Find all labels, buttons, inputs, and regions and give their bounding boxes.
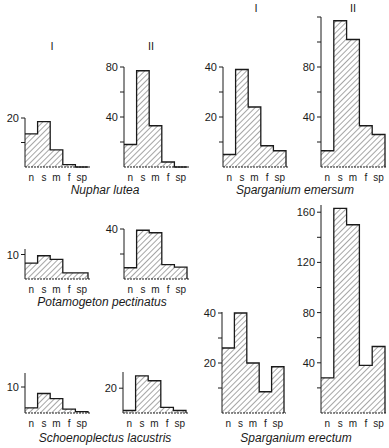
x-category-label: sp [373,172,384,183]
histogram-nuphar-lutea-ii: 4080nsmfsp [106,61,189,183]
panel-header-ii: II [148,40,154,52]
x-category-label: f [264,418,267,429]
x-category-label: s [239,172,244,183]
y-tick-label: 20 [105,382,117,394]
x-category-label: f [364,418,367,429]
x-category-label: s [338,172,343,183]
histogram-sparganium-emersum-i: 2040nsmfsp [205,61,288,183]
x-category-label: sp [373,418,384,429]
x-category-label: sp [76,418,87,429]
x-category-label: n [325,172,331,183]
x-category-label: sp [274,172,285,183]
x-category-label: s [338,418,343,429]
y-tick-label: 20 [204,357,216,369]
x-category-label: m [52,172,60,183]
y-tick-label: 10 [7,249,19,261]
x-category-label: n [29,418,35,429]
x-category-label: n [29,172,35,183]
x-category-label: m [349,172,357,183]
figure-canvas: IIIIII 20nsmfsp4080nsmfsp2040nsmfsp4080n… [0,0,389,448]
species-caption-sparganium-erectum: Sparganium erectum [240,431,351,445]
x-category-label: n [227,172,233,183]
x-category-label: m [151,284,159,295]
histogram-fill [124,71,187,167]
x-category-label: s [41,172,46,183]
x-category-label: n [29,284,35,295]
x-category-label: f [68,284,71,295]
y-tick-label: 40 [303,357,315,369]
x-category-label: m [349,418,357,429]
histogram-potamogeton-pectinatus-i: 10nsmfsp [7,249,90,296]
x-category-label: m [52,418,60,429]
y-tick-label: 40 [106,223,118,235]
x-category-label: f [167,172,170,183]
histogram-fill [25,394,88,414]
x-category-label: sp [175,172,186,183]
x-category-label: s [140,284,145,295]
y-tick-label: 80 [303,307,315,319]
x-category-label: s [41,418,46,429]
y-tick-label: 20 [7,112,19,124]
x-category-label: m [249,418,257,429]
y-tick-label: 40 [106,111,118,123]
panel-header-ii: II [350,2,356,14]
species-caption-potamogeton-pectinatus: Potamogeton pectinatus [37,295,166,309]
histogram-sparganium-erectum-ii: 4080120160nsmfsp [297,205,387,429]
x-category-label: f [166,418,169,429]
x-category-label: n [225,418,231,429]
histogram-potamogeton-pectinatus-ii: 40nsmfsp [106,223,189,295]
histogram-schoenoplectus-lacustris-i: 10nsmfsp [7,373,90,429]
x-category-label: f [68,418,71,429]
x-category-label: sp [174,418,185,429]
x-category-label: f [167,284,170,295]
panel-header-i: I [254,2,257,14]
x-category-label: m [52,284,60,295]
y-tick-label: 40 [303,111,315,123]
histogram-nuphar-lutea-i: 20nsmfsp [7,112,90,183]
x-category-label: sp [76,284,87,295]
x-category-label: m [250,172,258,183]
x-category-label: s [41,284,46,295]
x-category-label: f [68,172,71,183]
y-tick-label: 160 [297,206,315,218]
x-category-label: n [128,172,134,183]
histogram-figure: IIIIII 20nsmfsp4080nsmfsp2040nsmfsp4080n… [0,0,389,448]
x-category-label: s [140,172,145,183]
x-category-label: sp [76,172,87,183]
x-category-label: n [325,418,331,429]
x-category-label: s [238,418,243,429]
histogram-fill [124,230,187,279]
panel-header-i: I [50,40,53,52]
y-tick-label: 120 [297,256,315,268]
y-tick-label: 80 [106,61,118,73]
histogram-fill [321,21,385,167]
histogram-panels: 20nsmfsp4080nsmfsp2040nsmfsp4080nsmfsp10… [7,17,387,429]
y-tick-label: 20 [205,111,217,123]
histogram-fill [223,70,286,168]
x-category-label: sp [175,284,186,295]
x-category-label: f [266,172,269,183]
species-caption-sparganium-emersum: Sparganium emersum [236,183,354,197]
y-tick-label: 80 [303,61,315,73]
histogram-fill [321,208,385,413]
species-caption-nuphar-lutea: Nuphar lutea [71,183,140,197]
histogram-sparganium-erectum-i: 2040nsmfsp [204,307,286,429]
x-category-label: sp [273,418,284,429]
x-category-label: s [139,418,144,429]
y-tick-label: 40 [205,61,217,73]
y-tick-label: 10 [7,381,19,393]
histogram-schoenoplectus-lacustris-ii: 20nsmfsp [105,372,188,429]
x-category-label: m [150,418,158,429]
x-category-label: m [151,172,159,183]
panel-headers: IIIIII [50,2,356,52]
histogram-fill [25,122,88,167]
species-caption-schoenoplectus-lacustris: Schoenoplectus lacustris [39,431,172,445]
y-tick-label: 40 [204,307,216,319]
x-category-label: n [127,418,133,429]
x-category-label: f [364,172,367,183]
histogram-sparganium-emersum-ii: 4080nsmfsp [303,17,387,183]
x-category-label: n [128,284,134,295]
